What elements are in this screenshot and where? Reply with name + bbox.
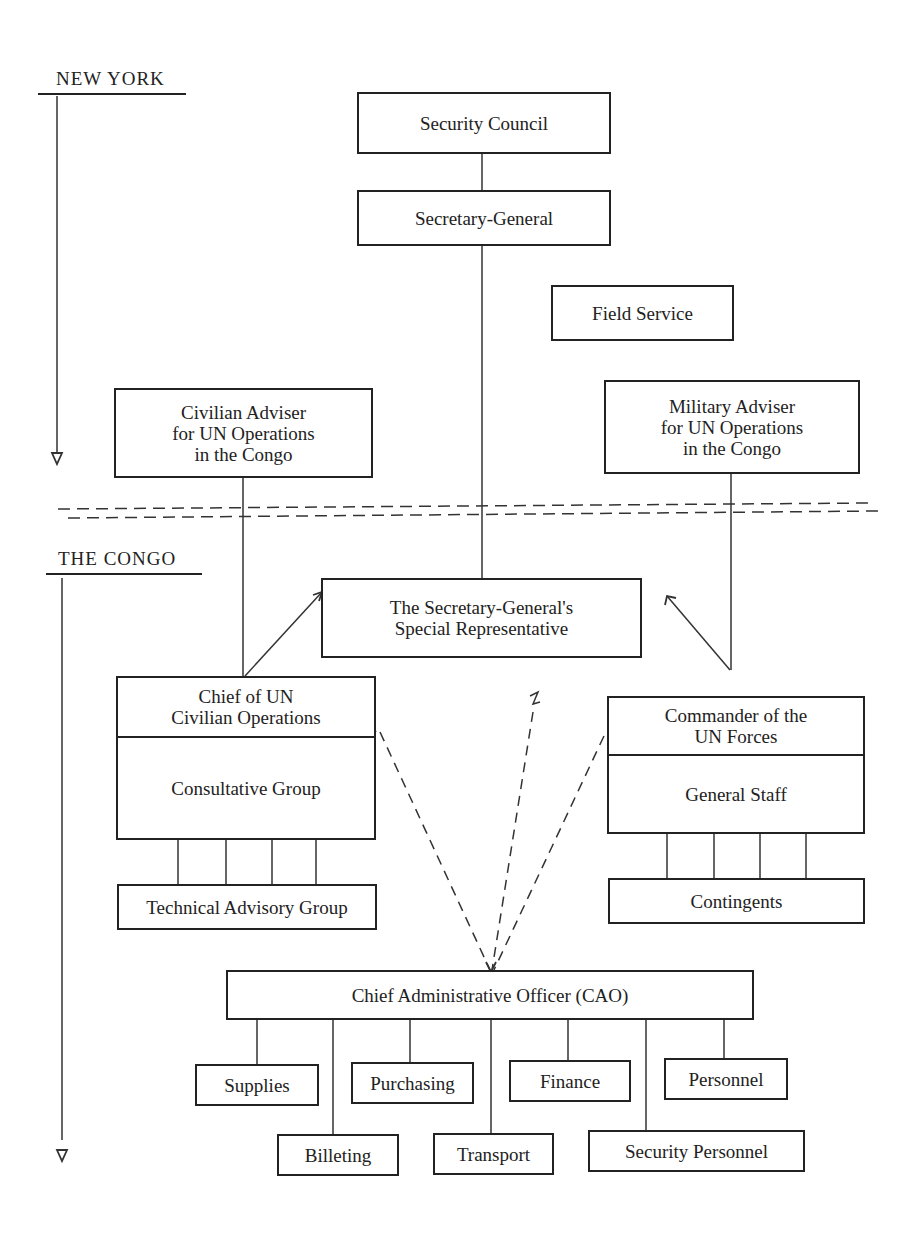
node-commander-un-forces: Commander of the UN Forces General Staff [607, 696, 865, 834]
node-chief-administrative-officer: Chief Administrative Officer (CAO) [226, 970, 754, 1020]
node-transport: Transport [433, 1133, 554, 1175]
node-special-representative: The Secretary-General's Special Represen… [321, 578, 642, 658]
section-label-congo: THE CONGO [58, 548, 176, 570]
node-military-adviser: Military Adviser for UN Operations in th… [604, 380, 860, 474]
section-label-new-york: NEW YORK [56, 68, 165, 90]
node-billeting: Billeting [277, 1134, 399, 1176]
consultative-group: Consultative Group [118, 738, 374, 838]
node-purchasing: Purchasing [351, 1062, 474, 1104]
node-security-council: Security Council [357, 92, 611, 154]
node-civilian-adviser: Civilian Adviser for UN Operations in th… [114, 388, 373, 478]
node-technical-advisory-group: Technical Advisory Group [117, 884, 377, 930]
node-finance: Finance [509, 1060, 631, 1102]
section-rule-congo [46, 573, 202, 575]
node-personnel: Personnel [664, 1058, 788, 1100]
section-rule-new-york [38, 93, 186, 95]
commander-un-forces-title: Commander of the UN Forces [609, 698, 863, 756]
org-chart: NEW YORK THE CONGO Security Council Secr… [0, 0, 923, 1244]
node-contingents: Contingents [608, 878, 865, 924]
node-field-service: Field Service [551, 285, 734, 341]
node-secretary-general: Secretary-General [357, 190, 611, 246]
node-security-personnel: Security Personnel [588, 1130, 805, 1172]
node-chief-civilian-operations: Chief of UN Civilian Operations Consulta… [116, 676, 376, 840]
general-staff: General Staff [609, 756, 863, 832]
chief-civilian-operations-title: Chief of UN Civilian Operations [118, 678, 374, 738]
node-supplies: Supplies [195, 1064, 319, 1106]
